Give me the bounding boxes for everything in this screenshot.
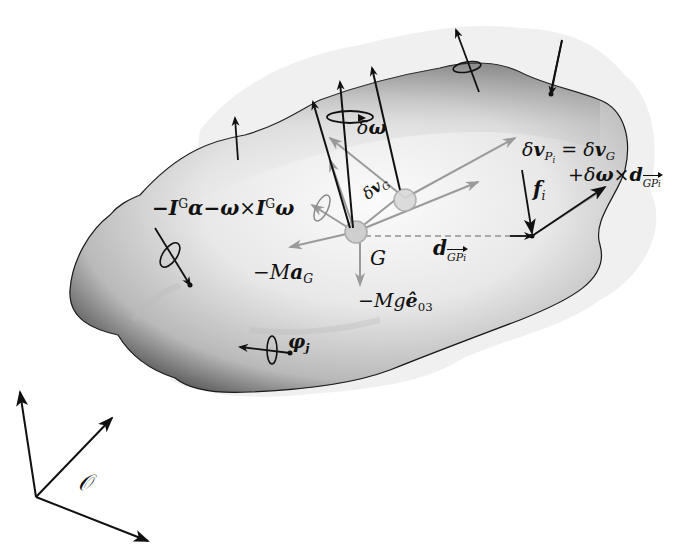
inertial-frame-O [20, 392, 148, 541]
diagram-stage: −IGα−ω×IGω δω δvG δvPi = δvG +δω×dGPi fi… [0, 0, 695, 560]
label-gravity: −Mgê03 [358, 291, 433, 314]
label-delta-vPi: δvPi = δvG [522, 140, 615, 164]
displaced-G [394, 189, 416, 211]
label-moment-phi-j: φj [288, 332, 309, 355]
label-G: G [370, 248, 386, 268]
label-delta-omega: δω [357, 118, 387, 137]
label-distance-dGPi: dGPi [433, 238, 466, 263]
label-plus-term: +δω×dGPi [568, 165, 661, 188]
rigid-body-figure [0, 0, 695, 560]
label-frame-O: 𝒪 [78, 472, 92, 494]
label-inertial-force: −MaG [253, 262, 313, 286]
label-inertial-torque: −IGα−ω×IGω [152, 198, 294, 218]
label-force-fi: fi [533, 179, 546, 203]
